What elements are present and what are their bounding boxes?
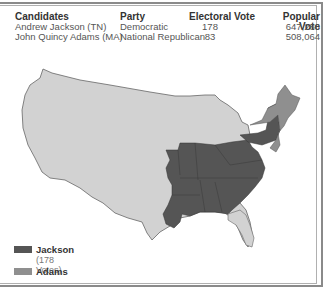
adams-swatch [14,268,32,275]
popular-vote: 508,064 [260,32,320,42]
candidate-name: John Quincy Adams (MA) [15,32,123,42]
header-electoral-vote: Electoral Vote [185,12,255,22]
jackson-swatch [14,246,32,253]
us-election-map [0,55,326,255]
florida-territory [228,210,254,247]
results-table: Candidates Party Electoral Vote Popular … [15,12,315,42]
legend-label: Adams [36,266,68,277]
electoral-vote: 83 [185,32,235,42]
table-row: John Quincy Adams (MA) National Republic… [15,32,315,42]
legend-label: Jackson [36,244,74,255]
